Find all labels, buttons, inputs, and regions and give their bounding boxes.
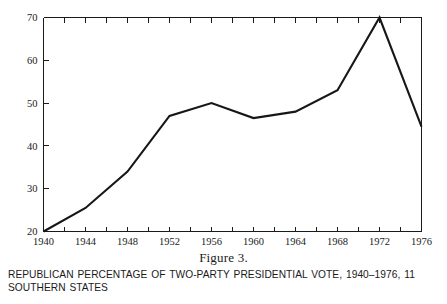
x-tick-label: 1968 — [327, 236, 348, 247]
x-tick-label: 1964 — [285, 236, 307, 247]
x-tick-label: 1952 — [159, 236, 180, 247]
x-tick-label: 1944 — [75, 236, 97, 247]
x-tick-label: 1956 — [201, 236, 222, 247]
x-tick-label: 1948 — [117, 236, 138, 247]
line-chart: 203040506070 194019441948195219561960196… — [0, 0, 447, 250]
y-tick-label: 40 — [27, 141, 38, 152]
x-tick-label: 1976 — [411, 236, 432, 247]
figure-number: Figure 3. — [0, 250, 447, 268]
figure-caption-block: Figure 3. REPUBLICAN PERCENTAGE OF TWO-P… — [0, 250, 447, 304]
x-tick-label: 1940 — [33, 236, 54, 247]
y-axis-tick-labels: 203040506070 — [27, 12, 38, 237]
y-tick-label: 60 — [27, 55, 38, 66]
series-line-republican-percentage — [44, 18, 422, 232]
x-axis-tick-labels: 1940194419481952195619601964196819721976 — [33, 236, 432, 247]
figure-container: 203040506070 194019441948195219561960196… — [0, 0, 447, 304]
axis-ticks — [44, 18, 401, 232]
x-tick-label: 1972 — [369, 236, 390, 247]
y-tick-label: 50 — [27, 98, 38, 109]
y-tick-label: 70 — [27, 12, 38, 23]
figure-caption-text: REPUBLICAN PERCENTAGE OF TWO-PARTY PRESI… — [0, 268, 447, 294]
y-tick-label: 30 — [27, 183, 38, 194]
plot-frame — [44, 18, 422, 232]
x-tick-label: 1960 — [243, 236, 264, 247]
data-series-line — [44, 18, 422, 232]
